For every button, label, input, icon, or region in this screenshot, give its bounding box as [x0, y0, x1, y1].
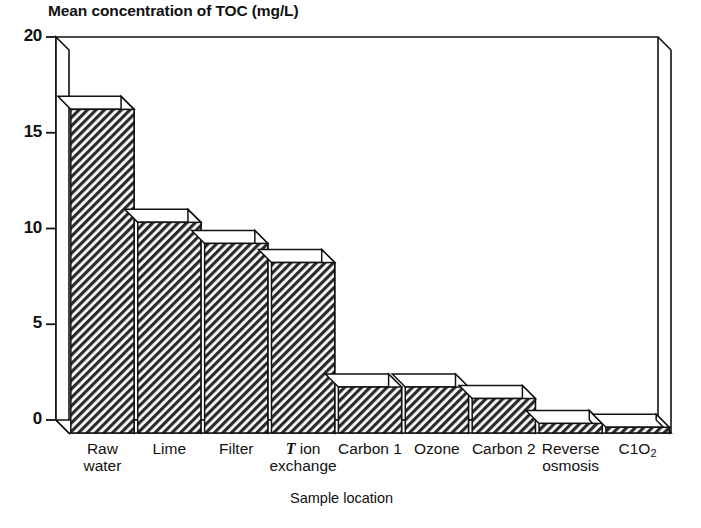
y-axis-ticks [46, 37, 56, 420]
chart-figure: Mean concentration of TOC (mg/L) 0510152… [0, 0, 701, 528]
x-axis-tick-label: C1O2 [587, 440, 688, 462]
x-axis-title: Sample location [290, 490, 393, 506]
